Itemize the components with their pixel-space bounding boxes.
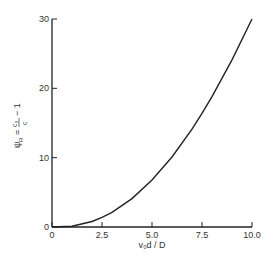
y-tick-label: 30 <box>39 14 49 24</box>
x-tick-label: 5.0 <box>146 230 159 240</box>
y-axis-num: c₀ <box>11 121 18 128</box>
y-tick-label: 10 <box>39 153 49 163</box>
y-axis-eq: = <box>12 130 22 135</box>
x-tick-label: 0 <box>49 230 54 240</box>
x-tick-label: 2.5 <box>96 230 109 240</box>
y-axis-label: ψ R = c₀ c − 1 <box>11 103 28 148</box>
x-tick-label: 10.0 <box>243 230 261 240</box>
y-axis-den: c <box>21 121 28 125</box>
y-tick-label: 20 <box>39 83 49 93</box>
y-ticks: 0102030 <box>39 14 57 232</box>
axes <box>52 19 252 227</box>
data-curve <box>52 19 252 227</box>
x-axis-label: v₀d / D <box>138 240 166 250</box>
chart: 0102030 02.55.07.510.0 v₀d / D ψ R = c₀ … <box>0 0 273 269</box>
x-tick-label: 7.5 <box>196 230 209 240</box>
y-tick-label: 0 <box>44 222 49 232</box>
y-axis-minus: − 1 <box>12 103 22 116</box>
y-axis-sub: R <box>18 137 24 142</box>
